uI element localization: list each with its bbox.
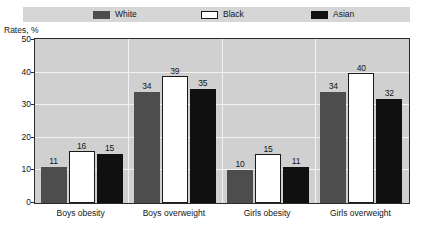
bar-black-girls-obesity: 15 <box>255 154 281 203</box>
bar-value-label: 40 <box>357 64 366 73</box>
bar-white-girls-obesity: 10 <box>227 170 253 203</box>
bar-value-label: 10 <box>235 160 244 169</box>
legend-label-black: Black <box>223 10 244 19</box>
y-tick-mark <box>31 39 35 40</box>
dark-gray-swatch-icon <box>93 11 110 19</box>
group-separator <box>128 39 129 203</box>
legend-item-white: White <box>93 7 137 22</box>
plot-inner: 01020304050111615343935101511344032 <box>35 39 409 203</box>
bar-white-girls-overweight: 34 <box>320 92 346 203</box>
bar-asian-boys-obesity: 15 <box>97 154 123 203</box>
y-tick-mark <box>31 72 35 73</box>
y-tick-label: 20 <box>22 132 31 141</box>
plot-area: 01020304050111615343935101511344032 <box>34 38 410 204</box>
white-swatch-icon <box>201 11 218 19</box>
y-tick-mark <box>31 202 35 203</box>
group-separator <box>222 39 223 203</box>
legend-label-white: White <box>115 10 137 19</box>
chart-legend: White Black Asian <box>23 7 410 22</box>
bar-value-label: 15 <box>263 145 272 154</box>
x-axis-label-boys-obesity: Boys obesity <box>57 208 105 218</box>
bar-asian-girls-obesity: 11 <box>283 167 309 203</box>
legend-item-black: Black <box>201 7 244 22</box>
bar-value-label: 35 <box>198 79 207 88</box>
y-tick-mark <box>31 137 35 138</box>
bar-white-boys-obesity: 11 <box>41 167 67 203</box>
legend-label-asian: Asian <box>333 10 354 19</box>
y-tick-mark <box>31 169 35 170</box>
bar-value-label: 15 <box>105 144 114 153</box>
group-separator <box>315 39 316 203</box>
bar-chart-figure: White Black Asian Rates, % 0102030405011… <box>0 0 421 226</box>
bar-asian-girls-overweight: 32 <box>376 99 402 203</box>
bar-black-girls-overweight: 40 <box>348 73 374 203</box>
bar-value-label: 34 <box>329 82 338 91</box>
y-tick-label: 10 <box>22 165 31 174</box>
y-tick-label: 30 <box>22 100 31 109</box>
bar-value-label: 34 <box>142 82 151 91</box>
bar-value-label: 16 <box>77 142 86 151</box>
bar-black-boys-obesity: 16 <box>69 151 95 203</box>
bar-black-boys-overweight: 39 <box>162 76 188 203</box>
bar-value-label: 39 <box>170 67 179 76</box>
y-tick-mark <box>31 104 35 105</box>
x-axis-label-boys-overweight: Boys overweight <box>143 208 205 218</box>
bar-white-boys-overweight: 34 <box>134 92 160 203</box>
y-tick-label: 0 <box>26 198 31 207</box>
legend-item-asian: Asian <box>311 7 354 22</box>
bar-value-label: 32 <box>385 89 394 98</box>
cut-off-title <box>90 0 330 4</box>
x-axis-label-girls-obesity: Girls obesity <box>244 208 291 218</box>
black-swatch-icon <box>311 11 328 19</box>
bar-value-label: 11 <box>292 157 301 166</box>
bar-asian-boys-overweight: 35 <box>190 89 216 203</box>
bar-value-label: 11 <box>49 157 58 166</box>
y-tick-label: 40 <box>22 67 31 76</box>
x-axis-label-girls-overweight: Girls overweight <box>330 208 391 218</box>
y-tick-label: 50 <box>22 35 31 44</box>
